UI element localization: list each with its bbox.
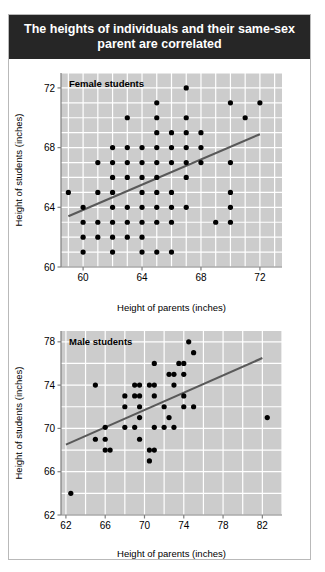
data-point bbox=[95, 160, 100, 165]
data-point bbox=[166, 415, 171, 420]
data-point bbox=[152, 383, 157, 388]
y-axis-title: Height of students (inches) bbox=[13, 113, 24, 226]
data-point bbox=[184, 145, 189, 150]
data-point bbox=[152, 361, 157, 366]
data-point bbox=[132, 393, 137, 398]
data-point bbox=[184, 160, 189, 165]
data-point bbox=[95, 235, 100, 240]
data-point bbox=[93, 437, 98, 442]
data-point bbox=[181, 361, 186, 366]
y-tick-label: 74 bbox=[44, 380, 56, 391]
data-point bbox=[154, 100, 159, 105]
data-point bbox=[81, 249, 86, 254]
data-point bbox=[66, 190, 71, 195]
x-tick-label: 78 bbox=[218, 520, 230, 531]
data-point bbox=[125, 160, 130, 165]
data-point bbox=[132, 383, 137, 388]
data-point bbox=[213, 220, 218, 225]
data-point bbox=[103, 425, 108, 430]
x-tick-label: 60 bbox=[78, 272, 90, 283]
data-point bbox=[95, 220, 100, 225]
data-point bbox=[228, 100, 233, 105]
data-point bbox=[125, 205, 130, 210]
data-point bbox=[181, 372, 186, 377]
plot-area-female-svg: 6064687260646872Female studentsHeight of… bbox=[9, 63, 310, 313]
data-point bbox=[147, 447, 152, 452]
data-point bbox=[184, 205, 189, 210]
data-point bbox=[198, 160, 203, 165]
data-point bbox=[166, 372, 171, 377]
data-point bbox=[137, 393, 142, 398]
data-point bbox=[191, 350, 196, 355]
x-axis-title: Height of parents (inches) bbox=[117, 302, 226, 313]
data-point bbox=[186, 339, 191, 344]
data-point bbox=[110, 235, 115, 240]
y-tick-label: 78 bbox=[44, 336, 56, 347]
data-point bbox=[125, 145, 130, 150]
figure-card: The heights of individuals and their sam… bbox=[8, 14, 311, 560]
data-point bbox=[169, 249, 174, 254]
data-point bbox=[103, 447, 108, 452]
series-title: Female students bbox=[69, 78, 144, 89]
x-tick-label: 82 bbox=[257, 520, 269, 531]
y-tick-label: 70 bbox=[44, 423, 56, 434]
chart-panel-male: 6266707478826266707478Male studentsHeigh… bbox=[9, 323, 310, 559]
data-point bbox=[169, 145, 174, 150]
data-point bbox=[171, 372, 176, 377]
data-point bbox=[110, 205, 115, 210]
data-point bbox=[81, 235, 86, 240]
data-point bbox=[191, 404, 196, 409]
data-point bbox=[257, 100, 262, 105]
data-point bbox=[154, 205, 159, 210]
x-tick-label: 64 bbox=[136, 272, 148, 283]
data-point bbox=[154, 175, 159, 180]
data-point bbox=[139, 205, 144, 210]
data-point bbox=[154, 115, 159, 120]
figure-title: The heights of individuals and their sam… bbox=[15, 22, 304, 53]
plot-area-female: 6064687260646872Female studentsHeight of… bbox=[9, 63, 310, 313]
data-point bbox=[110, 249, 115, 254]
data-point bbox=[198, 145, 203, 150]
data-point bbox=[152, 393, 157, 398]
data-point bbox=[137, 415, 142, 420]
data-point bbox=[154, 130, 159, 135]
data-point bbox=[162, 404, 167, 409]
data-point bbox=[154, 220, 159, 225]
data-point bbox=[139, 175, 144, 180]
data-point bbox=[81, 205, 86, 210]
plot-area-male: 6266707478826266707478Male studentsHeigh… bbox=[9, 323, 310, 559]
data-point bbox=[265, 415, 270, 420]
data-point bbox=[110, 190, 115, 195]
figure-root: The heights of individuals and their sam… bbox=[0, 0, 325, 572]
x-tick-label: 68 bbox=[195, 272, 207, 283]
data-point bbox=[154, 190, 159, 195]
y-tick-label: 68 bbox=[44, 142, 56, 153]
data-point bbox=[139, 220, 144, 225]
y-tick-label: 62 bbox=[44, 510, 56, 521]
data-point bbox=[154, 145, 159, 150]
data-point bbox=[132, 425, 137, 430]
data-point bbox=[228, 205, 233, 210]
data-point bbox=[147, 383, 152, 388]
data-point bbox=[125, 220, 130, 225]
data-point bbox=[198, 130, 203, 135]
data-point bbox=[162, 425, 167, 430]
data-point bbox=[125, 115, 130, 120]
data-point bbox=[137, 437, 142, 442]
series-title: Male students bbox=[69, 336, 132, 347]
data-point bbox=[110, 145, 115, 150]
data-point bbox=[147, 458, 152, 463]
x-tick-label: 70 bbox=[139, 520, 151, 531]
data-point bbox=[110, 175, 115, 180]
data-point bbox=[171, 425, 176, 430]
data-point bbox=[184, 115, 189, 120]
data-point bbox=[110, 220, 115, 225]
data-point bbox=[110, 160, 115, 165]
data-point bbox=[152, 425, 157, 430]
data-point bbox=[154, 249, 159, 254]
data-point bbox=[152, 447, 157, 452]
data-point bbox=[228, 190, 233, 195]
data-point bbox=[122, 404, 127, 409]
x-tick-label: 62 bbox=[60, 520, 72, 531]
data-point bbox=[176, 361, 181, 366]
